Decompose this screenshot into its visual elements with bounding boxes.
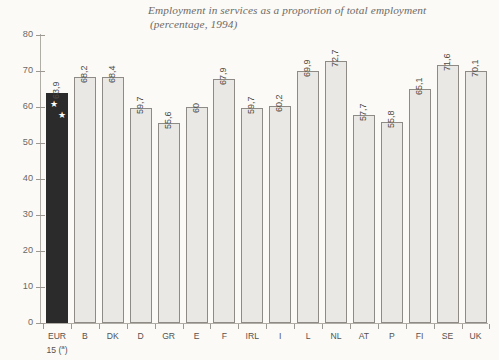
bar [130, 108, 152, 323]
bar-value-label: 59,7 [135, 97, 145, 115]
bar-value-label: 60,2 [274, 95, 284, 113]
chart-root: Employment in services as a proportion o… [0, 0, 499, 360]
y-axis-tick-label: 30 [0, 209, 33, 219]
x-axis-tick [462, 324, 463, 329]
x-axis-tick [266, 324, 267, 329]
y-axis-tick-label: 20 [0, 245, 33, 255]
bar [465, 71, 487, 323]
bar [74, 77, 96, 323]
x-axis-tick [434, 324, 435, 329]
bar-value-label: 65,1 [414, 77, 424, 95]
category-label-line: 15 (a) [35, 342, 79, 355]
bar-value-label: 68,2 [79, 66, 89, 84]
x-axis-tick [155, 324, 156, 329]
y-axis-tick [36, 215, 45, 216]
x-axis-tick [238, 324, 239, 329]
x-axis-tick [322, 324, 323, 329]
x-axis-tick [127, 324, 128, 329]
x-axis-tick [406, 324, 407, 329]
bar [325, 61, 347, 323]
bar-value-label: 55,6 [163, 111, 173, 129]
bar [102, 77, 124, 323]
bar-value-label: 60 [191, 103, 201, 113]
y-axis-tick-label: 60 [0, 101, 33, 111]
bar [213, 79, 235, 323]
bar-value-label: 72,7 [330, 50, 340, 68]
y-axis-tick [36, 35, 45, 36]
bar-value-label: 63,9 [51, 81, 61, 99]
bar-value-label: 68,4 [107, 65, 117, 83]
x-axis-tick [294, 324, 295, 329]
bar [241, 108, 263, 323]
y-axis-tick [36, 287, 45, 288]
x-axis-tick [378, 324, 379, 329]
bar [409, 89, 431, 323]
bar [297, 71, 319, 323]
bar [269, 106, 291, 323]
y-axis-tick-label: 40 [0, 173, 33, 183]
y-axis-tick [36, 143, 45, 144]
bar [437, 65, 459, 323]
bar-value-label: 59,7 [246, 97, 256, 115]
x-axis-tick [43, 324, 44, 329]
bar [158, 123, 180, 323]
bar-value-label: 70,1 [470, 59, 480, 77]
plot-area: 01020304050607080 ★★ 63,968,268,459,755,… [0, 0, 499, 360]
bar [381, 122, 403, 323]
star-icon: ★ [58, 111, 66, 120]
y-axis-tick [36, 71, 45, 72]
bar-highlight: ★★ [46, 93, 68, 323]
x-axis-baseline [40, 323, 488, 324]
y-axis-tick-label: 80 [0, 29, 33, 39]
bar [186, 107, 208, 323]
bar [353, 115, 375, 323]
category-label-line: UK [454, 331, 498, 342]
y-axis-tick-label: 10 [0, 281, 33, 291]
bar-value-label: 55,8 [386, 111, 396, 129]
x-axis-tick [71, 324, 72, 329]
bar-value-label: 71,6 [442, 54, 452, 72]
x-axis-tick [350, 324, 351, 329]
bar-value-label: 57,7 [358, 104, 368, 122]
category-axis-label: UK [454, 331, 498, 342]
x-axis-tick [210, 324, 211, 329]
x-axis-tick [489, 324, 490, 329]
x-axis-tick [99, 324, 100, 329]
x-axis-tick [183, 324, 184, 329]
y-axis-tick-label: 70 [0, 65, 33, 75]
bar-value-label: 69,9 [302, 60, 312, 78]
y-axis-tick [36, 107, 45, 108]
y-axis-tick-label: 0 [0, 317, 33, 327]
y-axis-tick [36, 251, 45, 252]
bar-value-label: 67,9 [218, 67, 228, 85]
y-axis-tick [36, 179, 45, 180]
y-axis-tick-label: 50 [0, 137, 33, 147]
star-icon: ★ [50, 100, 58, 109]
